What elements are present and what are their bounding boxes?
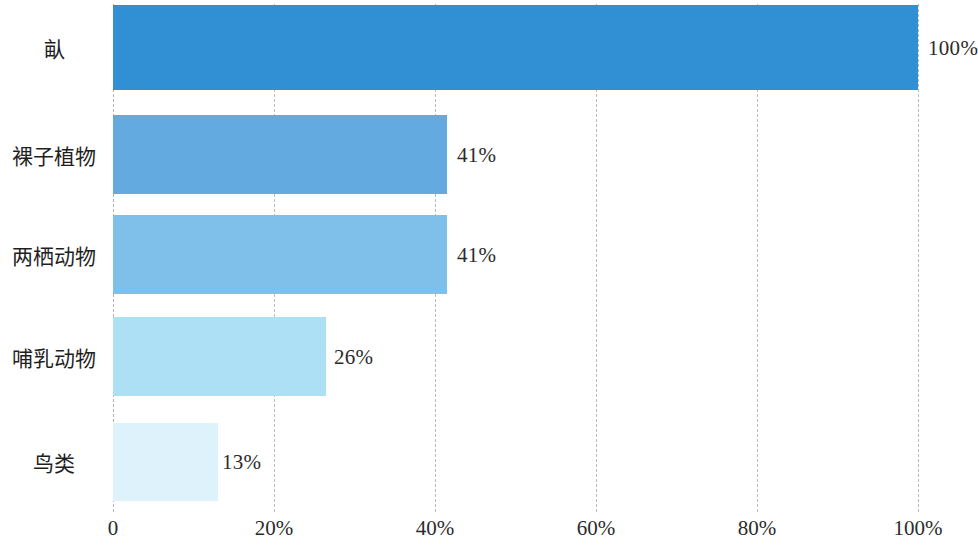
bar-row: 两栖动物 41% [0, 215, 978, 294]
category-label: 畒 [4, 33, 104, 63]
xtick-label-100: 100% [894, 516, 943, 541]
category-label: 两栖动物 [4, 240, 104, 270]
bar-segment[interactable] [113, 317, 326, 396]
bar-row: 哺乳动物 26% [0, 317, 978, 396]
xtick-label-20: 20% [255, 516, 294, 541]
plot-area: 畒 100% 裸子植物 41% 两栖动物 41% 哺乳动物 [0, 0, 978, 547]
bar-segment[interactable] [113, 423, 218, 501]
category-label: 裸子植物 [4, 140, 104, 170]
bar-value-label: 41% [457, 242, 496, 267]
bar-segment[interactable] [113, 5, 918, 90]
bar-row: 裸子植物 41% [0, 115, 978, 194]
bar-chart: 畒 100% 裸子植物 41% 两栖动物 41% 哺乳动物 [0, 0, 978, 547]
xtick-label-80: 80% [738, 516, 777, 541]
bar-value-label: 100% [928, 35, 978, 60]
bar-value-label: 41% [457, 142, 496, 167]
bar-value-label: 26% [334, 344, 373, 369]
xtick-label-40: 40% [416, 516, 455, 541]
xtick-label-0: 0 [108, 516, 119, 541]
bar-segment[interactable] [113, 115, 447, 194]
xtick-label-60: 60% [577, 516, 616, 541]
bar-row: 鸟类 13% [0, 423, 978, 501]
bar-segment[interactable] [113, 215, 447, 294]
category-label: 哺乳动物 [4, 342, 104, 372]
bar-row: 畒 100% [0, 5, 978, 90]
category-label: 鸟类 [4, 447, 104, 477]
bar-value-label: 13% [222, 450, 261, 475]
